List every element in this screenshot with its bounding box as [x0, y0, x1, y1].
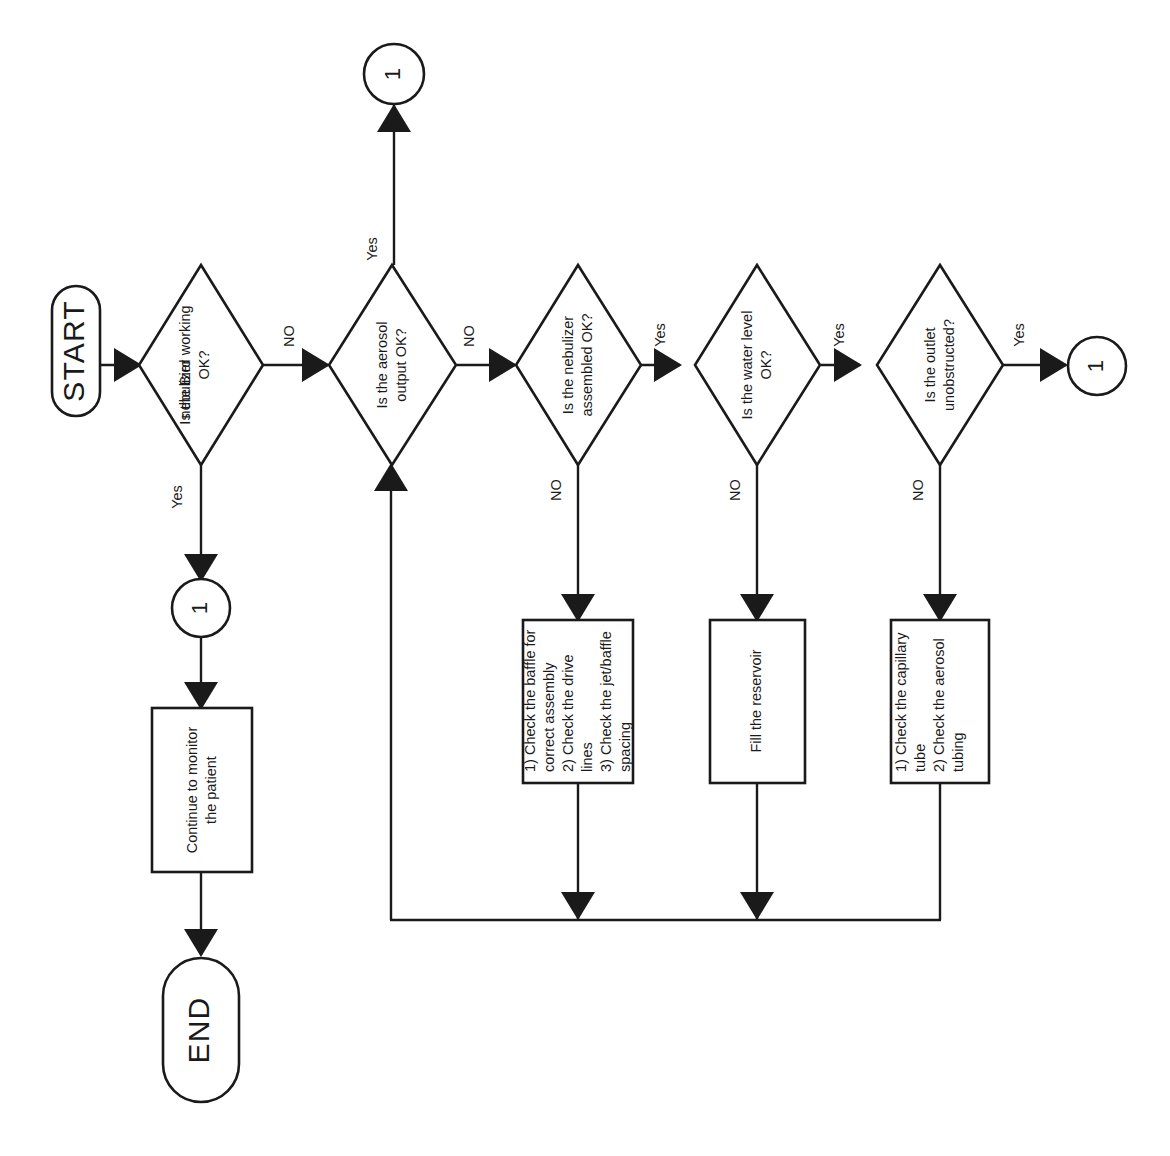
node-process-baffle[interactable]: 1) Check the baffle for correct assembly…	[522, 620, 633, 783]
process-capillary-line1: 1) Check the capillary	[893, 632, 909, 772]
arrowhead-into-fill-box	[740, 594, 774, 622]
edge-label-outlet-no: NO	[910, 479, 926, 501]
arrowhead-fill-to-bus	[740, 892, 774, 920]
decision-water-line1: Is the water level	[739, 311, 755, 420]
node-decision-assembled[interactable]: Is the nebulizer assembled OK?	[516, 265, 641, 465]
flowchart-canvas: START Is the Bird working nebulizer OK? …	[0, 0, 1170, 1156]
node-end[interactable]: END	[163, 958, 239, 1102]
process-baffle-line4: lines	[579, 742, 595, 772]
decision-bird-line3: OK?	[196, 350, 212, 379]
arrowhead-into-end	[184, 929, 218, 957]
arrowhead-into-connector-top	[377, 104, 411, 132]
connector-right-label: 1	[1083, 360, 1108, 372]
process-fill-text-group: Fill the reservoir	[748, 649, 764, 752]
arrowhead-into-aerosol-left	[302, 348, 330, 382]
arrowhead-into-monitor	[184, 682, 218, 710]
process-baffle-line3: 2) Check the drive	[560, 654, 576, 772]
process-baffle-line5: 3) Check the jet/baffle	[598, 631, 614, 772]
arrowhead-into-connector-right	[1040, 348, 1068, 382]
decision-assembled-line1: Is the nebulizer	[560, 316, 576, 415]
node-connector-right[interactable]: 1	[1068, 337, 1126, 395]
decision-water-line2: OK?	[758, 350, 774, 379]
edge-label-water-no: NO	[727, 479, 743, 501]
edge-label-aerosol-no: NO	[461, 325, 477, 347]
edge-label-bird-yes: Yes	[169, 485, 185, 509]
edge-label-outlet-yes: Yes	[1011, 323, 1027, 347]
end-label: END	[182, 997, 215, 1064]
decision-outlet-line1: Is the outlet	[922, 328, 938, 403]
node-process-monitor[interactable]: Continue to monitor the patient	[152, 708, 252, 872]
arrowhead-into-capillary-box	[923, 594, 957, 622]
connector-top-label: 1	[380, 68, 405, 80]
arrowhead-baffle-to-bus	[561, 892, 595, 920]
decision-aerosol-line1: Is the aerosol	[374, 321, 390, 408]
flowchart-root: START Is the Bird working nebulizer OK? …	[0, 0, 1170, 1156]
edge-label-aerosol-yes: Yes	[364, 237, 380, 261]
node-connector-left[interactable]: 1	[172, 579, 230, 637]
arrowhead-into-assembled	[489, 348, 517, 382]
node-decision-bird[interactable]: Is the Bird working nebulizer OK?	[139, 265, 263, 465]
process-baffle-line2: correct assembly	[541, 662, 557, 772]
arrowheads-group	[114, 104, 1068, 957]
process-baffle-line1: 1) Check the baffle for	[522, 629, 538, 772]
process-monitor-line1: Continue to monitor	[184, 727, 200, 854]
edge-label-water-yes: Yes	[831, 323, 847, 347]
arrowhead-into-baffle-box	[561, 594, 595, 622]
process-capillary-line2: tube	[912, 744, 928, 772]
node-decision-outlet[interactable]: Is the outlet unobstructed?	[877, 265, 1003, 465]
edge-label-bird-no: NO	[281, 325, 297, 347]
edge-label-assembled-yes: Yes	[652, 323, 668, 347]
arrowhead-into-water	[654, 348, 682, 382]
node-process-capillary[interactable]: 1) Check the capillary tube 2) Check the…	[891, 620, 989, 783]
process-capillary-line3: 2) Check the aerosol	[931, 638, 947, 772]
arrowhead-into-outlet	[834, 348, 862, 382]
connector-left-label: 1	[187, 602, 212, 614]
node-process-fill[interactable]: Fill the reservoir	[710, 620, 805, 783]
start-label: START	[57, 300, 90, 402]
process-monitor-line2: the patient	[203, 756, 219, 824]
decision-assembled-line2: assembled OK?	[579, 313, 595, 416]
node-start[interactable]: START	[52, 286, 100, 416]
edge-label-assembled-no: NO	[548, 479, 564, 501]
node-decision-water[interactable]: Is the water level OK?	[695, 265, 820, 465]
arrowhead-return-into-aerosol	[374, 463, 408, 491]
node-decision-aerosol[interactable]: Is the aerosol output OK?	[329, 265, 456, 465]
decision-outlet-line2: unobstructed?	[941, 319, 957, 411]
decision-bird-line2: nebulizer	[177, 359, 193, 418]
process-baffle-line6: spacing	[617, 722, 633, 772]
process-fill-line1: Fill the reservoir	[748, 649, 764, 752]
decision-aerosol-line2: output OK?	[393, 328, 409, 401]
node-connector-top[interactable]: 1	[364, 44, 424, 104]
process-capillary-line4: tubing	[950, 732, 966, 772]
